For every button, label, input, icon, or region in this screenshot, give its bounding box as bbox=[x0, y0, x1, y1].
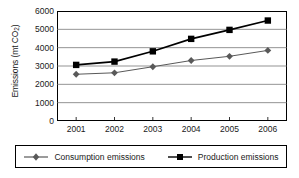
y-axis-title-tail: ) bbox=[10, 24, 20, 27]
x-axis-tick-label: 2001 bbox=[56, 125, 96, 134]
data-point-marker bbox=[111, 58, 117, 64]
data-point-marker bbox=[188, 57, 195, 64]
y-axis-title: Emissions (mt CO2) bbox=[10, 5, 20, 117]
y-axis-title-subscript: 2 bbox=[13, 27, 20, 31]
x-axis-tick-label: 2005 bbox=[210, 125, 250, 134]
data-point-marker bbox=[149, 63, 156, 70]
chart-figure: Emissions (mt CO2) 600050004000300020001… bbox=[0, 0, 299, 178]
data-point-marker bbox=[264, 47, 271, 54]
y-axis-tick-label: 0 bbox=[24, 117, 54, 125]
legend-label-consumption: Consumption emissions bbox=[54, 152, 144, 162]
diamond-marker-icon bbox=[23, 152, 49, 162]
x-axis-tick-label: 2004 bbox=[171, 125, 211, 134]
data-point-marker bbox=[111, 69, 118, 76]
x-axis-tick-label: 2002 bbox=[95, 125, 135, 134]
square-marker-icon bbox=[167, 152, 193, 162]
x-axis-tick-label: 2006 bbox=[248, 125, 288, 134]
data-point-marker bbox=[188, 36, 194, 42]
data-point-marker bbox=[265, 17, 271, 23]
data-point-marker bbox=[73, 71, 80, 78]
y-axis-tick-label: 6000 bbox=[24, 7, 54, 15]
y-axis-title-text: Emissions (mt CO bbox=[10, 31, 20, 98]
data-point-marker bbox=[150, 48, 156, 54]
x-axis-tick-labels: 200120022003200420052006 bbox=[0, 125, 299, 137]
y-axis-tick-label: 5000 bbox=[24, 25, 54, 33]
x-axis-tick-marks bbox=[76, 117, 268, 121]
plot-area bbox=[57, 11, 287, 121]
data-point-marker bbox=[226, 53, 233, 60]
y-axis-tick-label: 2000 bbox=[24, 80, 54, 88]
data-point-marker bbox=[73, 62, 79, 68]
y-axis-tick-label: 3000 bbox=[24, 62, 54, 70]
chart-legend: Consumption emissions Production emissio… bbox=[15, 145, 287, 168]
gridlines bbox=[57, 29, 287, 102]
series-line bbox=[76, 21, 268, 65]
legend-label-production: Production emissions bbox=[198, 152, 279, 162]
x-axis-tick-label: 2003 bbox=[133, 125, 173, 134]
legend-item-production: Production emissions bbox=[167, 152, 279, 162]
data-point-marker bbox=[226, 27, 232, 33]
y-axis-tick-label: 1000 bbox=[24, 99, 54, 107]
legend-item-consumption: Consumption emissions bbox=[23, 152, 144, 162]
y-axis-tick-label: 4000 bbox=[24, 44, 54, 52]
